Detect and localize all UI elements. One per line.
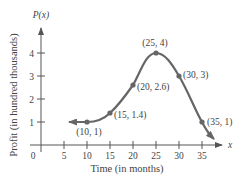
data-point xyxy=(130,82,135,87)
y-tick-label: 3 xyxy=(29,72,34,82)
y-tick-label: 1 xyxy=(29,118,34,128)
x-tick-label: 5 xyxy=(62,151,67,161)
x-tick-label: 35 xyxy=(197,151,207,161)
data-point xyxy=(176,73,181,78)
y-axis-title: Profit (in hundred thousands) xyxy=(8,33,20,157)
x-axis-title: Time (in months) xyxy=(90,163,164,175)
x-tick-label: 25 xyxy=(151,151,161,161)
x-tick-label: 30 xyxy=(174,151,184,161)
point-label: (25, 4) xyxy=(142,38,167,49)
x-axis-name: x xyxy=(227,140,233,150)
point-label: (35, 1) xyxy=(207,117,232,128)
origin-label: 0 xyxy=(31,151,36,161)
data-point xyxy=(153,50,158,55)
profit-chart: 1 2 3 4 0 5 10 15 20 25 30 35 P(x) x Tim… xyxy=(0,0,249,186)
x-tick-label: 15 xyxy=(105,151,115,161)
x-tick-label: 10 xyxy=(82,151,92,161)
data-point xyxy=(84,119,89,124)
y-axis-name: P(x) xyxy=(32,10,49,21)
y-tick-label: 2 xyxy=(29,95,34,105)
point-label: (10, 1) xyxy=(76,127,101,138)
curve-right-arrow xyxy=(208,133,214,139)
point-label: (30, 3) xyxy=(183,70,208,81)
data-point xyxy=(107,110,112,115)
point-label: (20, 2.6) xyxy=(137,82,169,93)
profit-curve xyxy=(70,53,213,138)
point-label: (15, 1.4) xyxy=(114,110,146,121)
data-point xyxy=(199,119,204,124)
x-tick-label: 20 xyxy=(128,151,138,161)
y-tick-label: 4 xyxy=(29,49,34,59)
